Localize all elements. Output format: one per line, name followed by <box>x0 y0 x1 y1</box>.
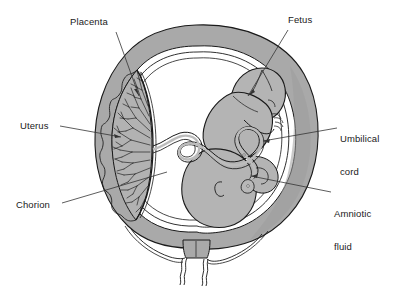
label-umbilical-cord-line2: cord <box>340 166 379 177</box>
cervix-block <box>183 240 210 258</box>
label-chorion: Chorion <box>16 199 50 210</box>
label-umbilical-cord-line1: Umbilical <box>340 133 379 144</box>
label-placenta: Placenta <box>70 16 108 27</box>
label-amniotic-fluid: Amniotic fluid <box>334 186 371 274</box>
pelvic-tube-structures <box>180 258 208 286</box>
label-uterus: Uterus <box>20 120 49 131</box>
label-amniotic-fluid-line2: fluid <box>334 241 371 252</box>
label-amniotic-fluid-line1: Amniotic <box>334 208 371 219</box>
cord-vessel-dot-2 <box>243 154 245 156</box>
cord-vessel-dot <box>247 185 250 188</box>
label-fetus: Fetus <box>288 14 312 25</box>
figure-canvas: Placenta Fetus Uterus Umbilical cord Cho… <box>0 0 411 287</box>
